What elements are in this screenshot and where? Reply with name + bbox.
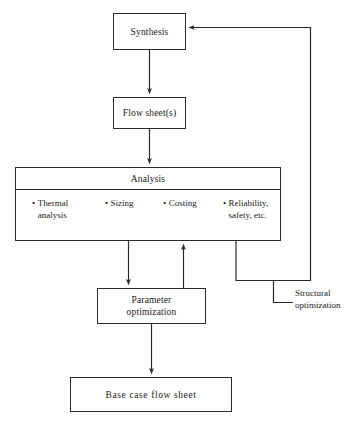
node-analysis-items: • Thermal analysis • Sizing • Costing • … <box>16 190 280 241</box>
analysis-item-label: Thermal analysis <box>38 198 69 221</box>
bullet-icon: • <box>105 198 108 210</box>
annotation-structural-optimization: Structural optimization <box>295 288 361 311</box>
analysis-item-label: Costing <box>169 198 197 210</box>
node-parameter-optimization-label: Parameter optimization <box>127 294 177 318</box>
node-synthesis-label: Synthesis <box>131 26 169 38</box>
node-parameter-optimization: Parameter optimization <box>97 288 206 324</box>
node-base-case-flow-sheet: Base case flow sheet <box>70 377 232 412</box>
analysis-item-reliability-safety: • Reliability, safety, etc. <box>223 198 280 221</box>
edge-analysis-to-synthesis-feedback <box>189 28 311 281</box>
node-analysis-header: Analysis <box>16 168 280 190</box>
node-synthesis: Synthesis <box>113 13 186 50</box>
analysis-item-costing: • Costing <box>163 198 211 210</box>
analysis-item-sizing: • Sizing <box>105 198 149 210</box>
node-base-case-flow-sheet-label: Base case flow sheet <box>106 389 197 401</box>
analysis-item-label: Sizing <box>111 198 134 210</box>
bullet-icon: • <box>163 198 166 210</box>
node-flow-sheet-label: Flow sheet(s) <box>123 107 176 119</box>
structural-optimization-leader-line <box>274 281 294 303</box>
bullet-icon: • <box>223 198 226 210</box>
node-analysis-label: Analysis <box>131 173 165 185</box>
flowchart-diagram: Synthesis Flow sheet(s) Analysis • Therm… <box>0 0 361 421</box>
analysis-item-thermal-analysis: • Thermal analysis <box>32 198 91 221</box>
bullet-icon: • <box>32 198 35 210</box>
node-flow-sheet: Flow sheet(s) <box>113 97 186 129</box>
analysis-item-label: Reliability, safety, etc. <box>229 198 269 221</box>
node-analysis: Analysis • Thermal analysis • Sizing • C… <box>15 167 281 241</box>
